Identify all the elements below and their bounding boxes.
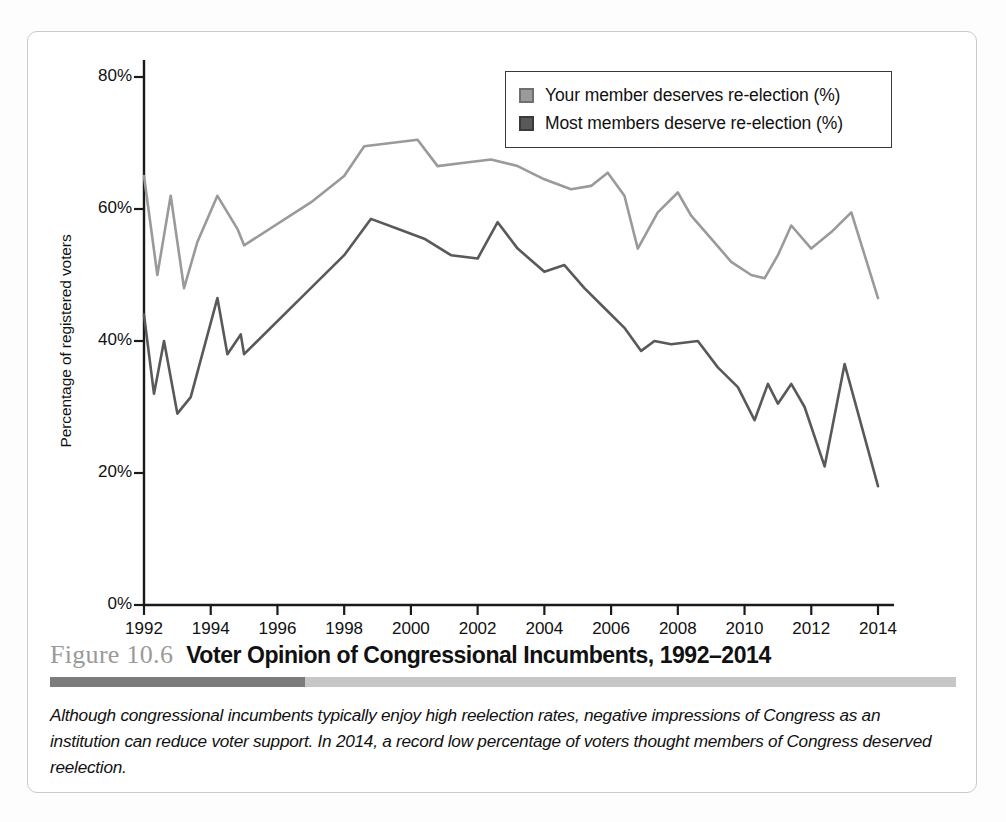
- x-tick-label: 1994: [181, 619, 241, 639]
- x-tick-label: 2008: [648, 619, 708, 639]
- y-axis-title: Percentage of registered voters: [57, 211, 75, 471]
- figure-rule-bar: [50, 677, 956, 687]
- y-tick-label: 40%: [76, 330, 132, 350]
- x-tick-label: 2002: [448, 619, 508, 639]
- figure-card: Percentage of registered voters 0%20%40%…: [27, 31, 977, 793]
- x-tick-label: 1996: [247, 619, 307, 639]
- chart-legend: Your member deserves re-election (%) Mos…: [505, 71, 892, 148]
- x-tick-label: 2010: [715, 619, 775, 639]
- legend-label-your-member: Your member deserves re-election (%): [545, 85, 840, 106]
- figure-caption-text: Although congressional incumbents typica…: [50, 702, 950, 780]
- y-tick-label: 20%: [76, 462, 132, 482]
- figure-number: Figure 10.6: [50, 640, 173, 670]
- x-tick-label: 1992: [114, 619, 174, 639]
- x-tick-label: 2014: [848, 619, 908, 639]
- x-tick-label: 2006: [581, 619, 641, 639]
- chart-plot-area: Percentage of registered voters 0%20%40%…: [28, 32, 978, 642]
- series-line-most-members: [144, 219, 878, 486]
- x-tick-label: 2000: [381, 619, 441, 639]
- legend-item-most-members: Most members deserve re-election (%): [519, 109, 878, 137]
- legend-swatch-light-icon: [519, 88, 534, 103]
- x-tick-label: 1998: [314, 619, 374, 639]
- x-tick-label: 2004: [514, 619, 574, 639]
- legend-swatch-dark-icon: [519, 116, 534, 131]
- y-tick-label: 0%: [76, 594, 132, 614]
- figure-title-line: Figure 10.6 Voter Opinion of Congression…: [50, 640, 956, 670]
- figure-caption-block: Figure 10.6 Voter Opinion of Congression…: [28, 640, 978, 780]
- y-tick-label: 60%: [76, 198, 132, 218]
- y-tick-label: 80%: [76, 66, 132, 86]
- legend-label-most-members: Most members deserve re-election (%): [545, 113, 843, 134]
- legend-item-your-member: Your member deserves re-election (%): [519, 81, 878, 109]
- figure-title: Voter Opinion of Congressional Incumbent…: [186, 642, 771, 669]
- figure-root: Percentage of registered voters 0%20%40%…: [0, 0, 1006, 822]
- x-tick-label: 2012: [781, 619, 841, 639]
- series-line-your-member: [144, 140, 878, 298]
